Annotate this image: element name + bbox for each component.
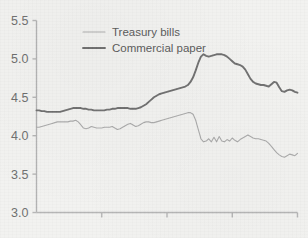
line-chart-svg: 3.03.54.04.55.05.5 Treasury billsCommerc…	[0, 0, 308, 238]
chart-figure: 3.03.54.04.55.05.5 Treasury billsCommerc…	[0, 0, 308, 238]
y-tick-label: 4.0	[11, 129, 28, 143]
series-line-treasury-bills	[37, 113, 298, 158]
y-tick-label: 4.5	[11, 91, 28, 105]
chart-legend: Treasury billsCommercial paper	[83, 26, 206, 54]
y-axis-tick-labels: 3.03.54.04.55.05.5	[11, 14, 28, 220]
legend-label-treasury-bills: Treasury bills	[112, 26, 180, 38]
legend-label-commercial-paper: Commercial paper	[112, 42, 206, 54]
y-tick-label: 3.5	[11, 168, 28, 182]
y-tick-label: 5.5	[11, 14, 28, 28]
x-axis-ticks	[102, 213, 298, 218]
data-series-group	[37, 54, 298, 157]
series-line-commercial-paper	[37, 54, 298, 112]
y-tick-label: 3.0	[11, 206, 28, 220]
y-tick-label: 5.0	[11, 52, 28, 66]
